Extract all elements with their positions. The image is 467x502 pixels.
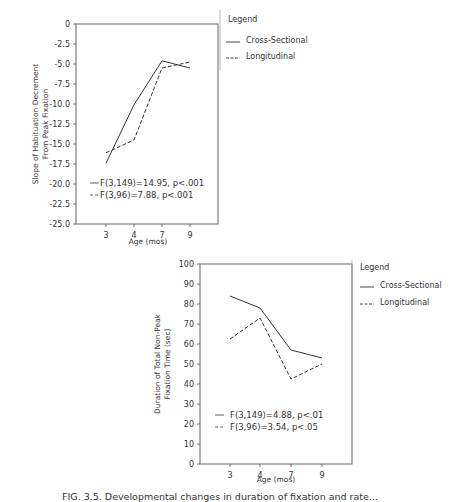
y-axis-title: Duration of Total Non-Peak [153,313,162,414]
legend-entry: Cross-Sectional [380,281,442,290]
legend-entry: Longitudinal [380,298,429,307]
y-tick-label: -25.0 [49,220,70,229]
series-longitudinal [230,318,322,379]
legend-title: Legend [228,15,257,24]
y-axis-title: Slope of Habituation Decrement [31,64,40,185]
y-tick-label: 90 [184,280,194,289]
y-tick-label: 40 [184,380,194,389]
figure: -25.0-22.5-20.0-17.5-15.0-12.5-10.0-7.5-… [0,0,467,502]
y-tick-label: -17.5 [49,160,70,169]
x-axis-title: Age (mos) [129,237,168,246]
x-tick-label: 9 [319,471,324,480]
y-tick-label: -15.0 [49,140,70,149]
plot-frame [200,264,352,464]
y-tick-label: 50 [184,360,194,369]
y-tick-label: -22.5 [49,200,70,209]
stat-annotation: F(3,149)=14.95, p<.001 [100,178,204,188]
y-tick-label: -2.5 [54,40,70,49]
y-axis-title: Fixation Time (sec) [163,328,172,399]
legend-entry: Cross-Sectional [246,36,308,45]
y-tick-label: -10.0 [49,100,70,109]
stat-annotation: F(3,96)=3.54, p<.05 [230,422,318,432]
figure-caption: FIG. 3.5. Developmental changes in durat… [62,491,378,502]
y-axis-title: From Peak Fixation [41,89,50,160]
y-tick-label: 10 [184,440,194,449]
legend-title: Legend [360,263,389,272]
y-tick-label: -7.5 [54,80,70,89]
x-tick-label: 3 [103,231,108,240]
legend-entry: Longitudinal [246,52,295,61]
y-tick-label: 80 [184,300,194,309]
y-tick-label: -20.0 [49,180,70,189]
y-tick-label: -5.0 [54,60,70,69]
y-tick-label: 30 [184,400,194,409]
non-peak-fixation-chart: 01020304050607080901003479Age (mos)Durat… [153,260,442,484]
x-axis-title: Age (mos) [257,475,296,484]
series-cross-sectional [230,296,322,358]
y-tick-label: -12.5 [49,120,70,129]
stat-annotation: F(3,96)=7.88, p<.001 [100,190,193,200]
y-tick-label: 70 [184,320,194,329]
stat-annotation: F(3,149)=4.88, p<.01 [230,410,323,420]
y-tick-label: 20 [184,420,194,429]
x-tick-label: 9 [187,231,192,240]
habituation-slope-chart: -25.0-22.5-20.0-17.5-15.0-12.5-10.0-7.5-… [31,10,308,246]
y-tick-label: 0 [65,20,70,29]
y-tick-label: 100 [179,260,194,269]
x-tick-label: 3 [227,471,232,480]
y-tick-label: 0 [189,460,194,469]
series-longitudinal [106,62,190,153]
y-tick-label: 60 [184,340,194,349]
series-cross-sectional [106,61,190,163]
